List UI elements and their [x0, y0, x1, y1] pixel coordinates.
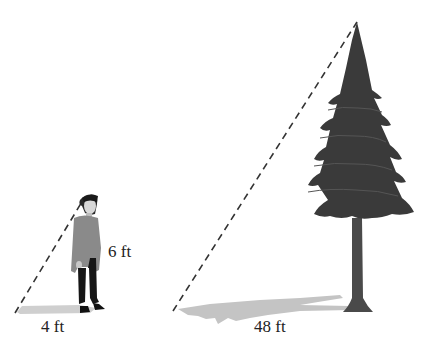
person-shadow-label: 4 ft	[41, 317, 64, 337]
diagram-canvas	[0, 0, 436, 360]
person-height-label: 6 ft	[108, 242, 131, 262]
tree-foliage	[308, 22, 414, 219]
tree-trunk	[343, 218, 373, 312]
similar-triangles-diagram: 6 ft 4 ft 48 ft	[0, 0, 436, 360]
tree-shadow-label: 48 ft	[254, 317, 286, 337]
person-figure	[71, 194, 105, 313]
